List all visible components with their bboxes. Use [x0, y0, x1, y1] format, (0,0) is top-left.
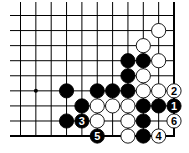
white-stone — [136, 39, 150, 53]
white-stone — [106, 99, 120, 113]
white-stone-icon — [152, 84, 166, 98]
stones: 213654 — [59, 23, 181, 143]
white-stone — [152, 84, 166, 98]
white-stone-icon — [90, 99, 104, 113]
black-stone-icon — [59, 114, 73, 128]
black-stone-3: 3 — [75, 114, 89, 128]
white-stone-icon — [136, 69, 150, 83]
white-stone — [136, 84, 150, 98]
go-board: 213654 — [0, 0, 189, 153]
white-stone-icon — [121, 99, 135, 113]
move-number: 1 — [171, 100, 177, 112]
star-point — [34, 89, 38, 93]
white-stone-4: 4 — [152, 129, 166, 143]
white-stone-6: 6 — [167, 114, 181, 128]
black-stone — [59, 114, 73, 128]
white-stone-icon — [136, 84, 150, 98]
black-stone — [121, 84, 135, 98]
black-stone-icon — [121, 54, 135, 68]
black-stone — [59, 84, 73, 98]
white-stone — [152, 54, 166, 68]
black-stone — [75, 99, 89, 113]
white-stone — [121, 99, 135, 113]
white-stone-icon — [152, 54, 166, 68]
black-stone — [106, 84, 120, 98]
move-number: 6 — [171, 115, 177, 127]
black-stone — [152, 99, 166, 113]
black-stone — [136, 99, 150, 113]
black-stone-icon — [121, 69, 135, 83]
black-stone-icon — [90, 84, 104, 98]
white-stone-icon — [152, 23, 166, 37]
white-stone — [152, 23, 166, 37]
white-stone-icon — [121, 129, 135, 143]
black-stone-icon — [121, 84, 135, 98]
black-stone-icon — [136, 99, 150, 113]
move-number: 2 — [171, 85, 177, 97]
white-stone — [90, 114, 104, 128]
white-stone-icon — [121, 114, 135, 128]
black-stone — [121, 54, 135, 68]
black-stone-icon — [152, 99, 166, 113]
white-stone-icon — [136, 39, 150, 53]
star-points — [34, 89, 38, 93]
white-stone — [121, 129, 135, 143]
black-stone-icon — [136, 114, 150, 128]
black-stone-icon — [106, 84, 120, 98]
black-stone — [136, 114, 150, 128]
white-stone-2: 2 — [167, 84, 181, 98]
black-stone — [121, 69, 135, 83]
black-stone-5: 5 — [90, 129, 104, 143]
black-stone-icon — [75, 99, 89, 113]
black-stone-1: 1 — [167, 99, 181, 113]
move-number: 5 — [94, 130, 100, 142]
black-stone-icon — [136, 54, 150, 68]
black-stone-icon — [59, 84, 73, 98]
white-stone-icon — [90, 114, 104, 128]
move-number: 3 — [79, 115, 85, 127]
white-stone-icon — [106, 99, 120, 113]
white-stone — [121, 114, 135, 128]
white-stone — [136, 69, 150, 83]
black-stone — [90, 84, 104, 98]
black-stone — [136, 129, 150, 143]
white-stone — [90, 99, 104, 113]
black-stone-icon — [136, 129, 150, 143]
black-stone — [136, 54, 150, 68]
move-number: 4 — [156, 130, 163, 142]
